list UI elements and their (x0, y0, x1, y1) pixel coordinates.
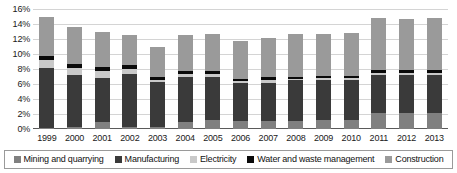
x-axis-tick-label: 2005 (199, 131, 227, 145)
bar-group (393, 9, 421, 129)
bar-segment (150, 47, 165, 77)
bar-segment (205, 77, 220, 121)
legend-label: Mining and quarrying (24, 155, 104, 164)
x-axis-tick-label: 2006 (227, 131, 255, 145)
chart-legend: Mining and quarryingManufacturingElectri… (4, 150, 453, 169)
bar-group (254, 9, 282, 129)
legend-swatch-icon (115, 156, 122, 163)
bar-segment (39, 17, 54, 56)
bar-segment (67, 27, 82, 64)
bar-group (33, 9, 61, 129)
legend-label: Water and waste management (257, 155, 374, 164)
bar-segment (233, 121, 248, 129)
stacked-bar-2013[interactable] (427, 18, 442, 129)
legend-item[interactable]: Construction (385, 155, 443, 164)
bar-segment (95, 78, 110, 122)
x-axis-tick-label: 1999 (33, 131, 61, 145)
stacked-bar-2007[interactable] (261, 38, 276, 129)
x-axis-tick-label: 2008 (282, 131, 310, 145)
bar-segment (316, 34, 331, 76)
bar-segment (39, 128, 54, 129)
stacked-bar-2000[interactable] (67, 27, 82, 129)
legend-item[interactable]: Manufacturing (115, 155, 179, 164)
stacked-bar-2008[interactable] (288, 34, 303, 129)
stacked-bar-2006[interactable] (233, 41, 248, 129)
bar-segment (178, 77, 193, 122)
stacked-bar-2012[interactable] (399, 19, 414, 129)
y-axis-labels: 16%14%12%10%8%6%4%2%0% (0, 9, 30, 129)
stacked-bar-1999[interactable] (39, 17, 54, 130)
x-axis-tick-label: 2013 (420, 131, 448, 145)
stacked-bar-2001[interactable] (95, 32, 110, 130)
stacked-bar-2002[interactable] (122, 35, 137, 129)
bar-group (199, 9, 227, 129)
bar-segment (67, 127, 82, 129)
bar-group (116, 9, 144, 129)
stacked-bar-2003[interactable] (150, 47, 165, 129)
stacked-bar-2005[interactable] (205, 34, 220, 129)
bar-segment (67, 68, 82, 76)
y-axis-tick-label: 0% (17, 125, 30, 134)
x-axis-tick-label: 2012 (393, 131, 421, 145)
bar-segment (371, 75, 386, 113)
bar-segment (399, 19, 414, 70)
legend-swatch-icon (190, 156, 197, 163)
bar-segment (288, 121, 303, 129)
bar-segment (122, 127, 137, 129)
bar-segment (316, 120, 331, 129)
bar-segment (39, 68, 54, 127)
bar-segment (95, 32, 110, 67)
legend-swatch-icon (247, 156, 254, 163)
y-axis-tick-label: 12% (13, 35, 30, 44)
bar-segment (95, 71, 110, 79)
stacked-bar-2009[interactable] (316, 34, 331, 129)
bar-segment (288, 80, 303, 121)
bar-segment (344, 120, 359, 129)
stacked-bar-2011[interactable] (371, 18, 386, 129)
x-axis-tick-label: 2004 (171, 131, 199, 145)
bar-segment (427, 113, 442, 130)
bar-group (227, 9, 255, 129)
bar-segment (288, 34, 303, 77)
x-axis-tick-label: 2001 (88, 131, 116, 145)
y-axis-tick-label: 16% (13, 5, 30, 14)
stacked-bar-2004[interactable] (178, 35, 193, 129)
bar-segment (39, 60, 54, 68)
x-axis-labels: 1999200020012002200320042005200620072008… (33, 131, 448, 145)
bar-segment (399, 75, 414, 113)
y-axis-tick-label: 10% (13, 50, 30, 59)
bar-segment (427, 18, 442, 70)
legend-item[interactable]: Mining and quarrying (14, 155, 104, 164)
bar-segment (122, 35, 137, 65)
bar-segment (122, 74, 137, 127)
legend-label: Electricity (200, 155, 236, 164)
x-axis-tick-label: 2011 (365, 131, 393, 145)
bar-group (144, 9, 172, 129)
x-axis-tick-label: 2010 (337, 131, 365, 145)
bar-segment (371, 113, 386, 130)
bar-segment (261, 121, 276, 129)
legend-swatch-icon (14, 156, 21, 163)
x-axis-tick-label: 2002 (116, 131, 144, 145)
stacked-bar-chart: 16%14%12%10%8%6%4%2%0% 19992000200120022… (0, 0, 457, 173)
y-axis-tick-label: 14% (13, 20, 30, 29)
bar-segment (371, 18, 386, 70)
bar-group (337, 9, 365, 129)
legend-item[interactable]: Water and waste management (247, 155, 374, 164)
bar-segment (205, 120, 220, 129)
x-axis-tick-label: 2007 (254, 131, 282, 145)
bar-segment (233, 41, 248, 79)
bar-segment (150, 127, 165, 129)
stacked-bar-2010[interactable] (344, 33, 359, 129)
bar-segment (399, 113, 414, 130)
bar-segment (67, 75, 82, 127)
y-axis-tick-label: 4% (17, 95, 30, 104)
bar-group (282, 9, 310, 129)
bar-segment (344, 33, 359, 76)
bar-group (310, 9, 338, 129)
bar-group (61, 9, 89, 129)
legend-item[interactable]: Electricity (190, 155, 236, 164)
y-axis-tick-label: 8% (17, 65, 30, 74)
bar-group (171, 9, 199, 129)
legend-label: Manufacturing (125, 155, 179, 164)
